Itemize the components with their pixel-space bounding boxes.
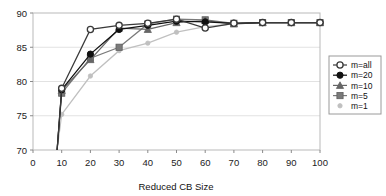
data-point-marker xyxy=(87,26,93,32)
y-tick-label: 85 xyxy=(16,42,27,53)
data-point-marker xyxy=(337,62,343,68)
chart-container: 7075808590 0102030405060708090100 Reduce… xyxy=(0,0,386,196)
legend-label: m=20 xyxy=(351,70,373,80)
data-point-marker xyxy=(87,51,93,57)
legend: m=allm=20m=10m=5m=1 xyxy=(329,56,381,114)
y-tick-label: 90 xyxy=(16,8,27,19)
data-point-marker xyxy=(173,16,179,22)
data-point-marker xyxy=(88,74,92,78)
legend-label: m=5 xyxy=(351,91,368,101)
x-tick-label: 60 xyxy=(200,157,211,168)
y-tick-label: 75 xyxy=(16,110,27,121)
data-point-marker xyxy=(317,19,323,25)
x-tick-label: 100 xyxy=(312,157,328,168)
y-tick-label: 80 xyxy=(16,76,27,87)
data-point-marker xyxy=(145,20,151,26)
x-axis-title: Reduced CB Size xyxy=(139,181,214,192)
data-point-marker xyxy=(116,44,122,50)
data-point-marker xyxy=(146,41,150,45)
data-point-marker xyxy=(202,19,208,25)
data-point-marker xyxy=(260,19,266,25)
legend-label: m=10 xyxy=(351,81,373,91)
x-tick-label: 30 xyxy=(114,157,125,168)
y-tick-label: 70 xyxy=(16,145,27,156)
data-point-marker xyxy=(337,72,343,78)
legend-label: m=all xyxy=(351,60,372,70)
y-axis-tick-labels: 7075808590 xyxy=(16,8,33,156)
data-point-marker xyxy=(231,20,237,26)
data-point-marker xyxy=(337,93,343,99)
data-point-marker xyxy=(202,25,208,31)
x-tick-label: 90 xyxy=(286,157,297,168)
x-axis-tick-labels: 0102030405060708090100 xyxy=(30,157,328,168)
data-point-marker xyxy=(338,104,342,108)
x-tick-label: 40 xyxy=(143,157,154,168)
x-tick-label: 80 xyxy=(257,157,268,168)
data-point-marker xyxy=(116,22,122,28)
chart-svg: 7075808590 0102030405060708090100 Reduce… xyxy=(0,0,386,196)
x-tick-label: 20 xyxy=(85,157,96,168)
data-point-marker xyxy=(59,85,65,91)
x-tick-label: 10 xyxy=(56,157,67,168)
data-point-marker xyxy=(174,30,178,34)
x-tick-label: 70 xyxy=(229,157,240,168)
x-tick-label: 50 xyxy=(171,157,182,168)
data-point-marker xyxy=(288,19,294,25)
x-tick-label: 0 xyxy=(30,157,35,168)
legend-label: m=1 xyxy=(351,101,368,111)
